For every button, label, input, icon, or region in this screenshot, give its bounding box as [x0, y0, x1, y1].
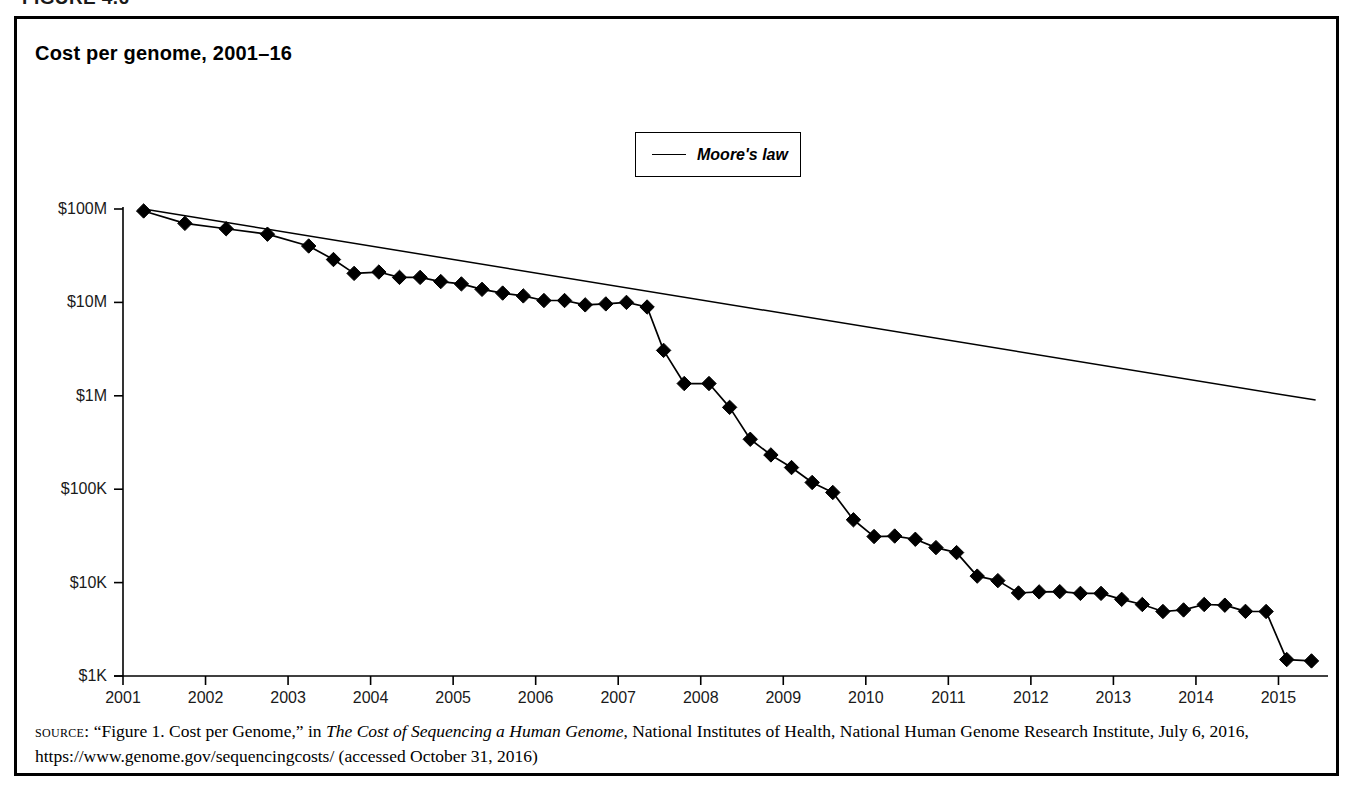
source-title-italic: The Cost of Sequencing a Human Genome: [326, 721, 623, 741]
x-axis-tick-label: 2011: [931, 689, 965, 707]
x-axis-tick-label: 2004: [353, 689, 389, 707]
x-axis-tick-label: 2008: [683, 689, 719, 707]
y-axis-tick-label: $10M: [17, 293, 107, 311]
y-axis-tick-label: $1K: [17, 667, 107, 685]
x-axis-tick-label: 2012: [1013, 689, 1049, 707]
y-axis-tick-label: $100M: [17, 200, 107, 218]
x-axis-tick-label: 2013: [1096, 689, 1132, 707]
chart-legend: Moore's law: [635, 132, 801, 177]
source-kicker: source:: [35, 721, 89, 741]
chart-plot-area: Moore's law $1K$10K$100K$1M$10M$100M2001…: [17, 19, 1336, 773]
source-text-part1: “Figure 1. Cost per Genome,” in: [89, 721, 326, 741]
y-axis-tick-label: $100K: [17, 480, 107, 498]
y-axis-tick-label: $1M: [17, 387, 107, 405]
x-axis-tick-label: 2010: [848, 689, 884, 707]
source-note: source: “Figure 1. Cost per Genome,” in …: [35, 719, 1315, 770]
x-axis-tick-label: 2006: [518, 689, 554, 707]
y-axis-tick-label: $10K: [17, 574, 107, 592]
x-axis-tick-label: 2009: [765, 689, 801, 707]
legend-line-swatch-icon: [652, 154, 686, 155]
figure-frame: Cost per genome, 2001–16 Moore's law $1K…: [14, 16, 1339, 776]
x-axis-tick-label: 2007: [600, 689, 636, 707]
x-axis-tick-label: 2015: [1261, 689, 1297, 707]
x-axis-tick-label: 2014: [1178, 689, 1214, 707]
figure-caption: FIGURE 4.6: [22, 0, 129, 9]
x-axis-tick-label: 2001: [105, 689, 141, 707]
legend-label-moores-law: Moore's law: [697, 146, 788, 164]
figure-caption-strip: FIGURE 4.6: [0, 0, 1356, 14]
x-axis-tick-label: 2002: [188, 689, 224, 707]
x-axis-tick-label: 2005: [435, 689, 471, 707]
x-axis-tick-label: 2003: [270, 689, 306, 707]
